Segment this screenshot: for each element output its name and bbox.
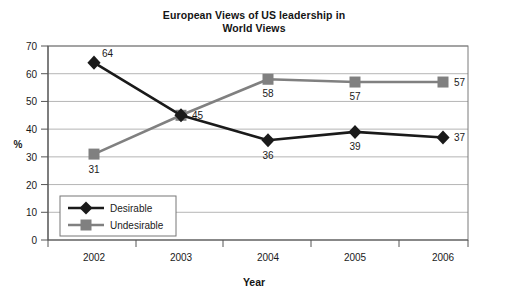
y-tick-label-30: 30 <box>26 152 38 163</box>
series-undesirable-marker-2006 <box>438 77 449 88</box>
x-axis <box>48 240 468 247</box>
y-tick-label-70: 70 <box>26 41 38 52</box>
y-tick-label-0: 0 <box>31 235 37 246</box>
data-label-desirable-2004: 36 <box>262 150 274 161</box>
x-tick-label-2005: 2005 <box>344 252 367 263</box>
x-tick-label-2006: 2006 <box>432 252 455 263</box>
legend-label-desirable: Desirable <box>110 203 153 214</box>
y-axis-title: % <box>14 139 23 150</box>
y-tick-label-10: 10 <box>26 207 38 218</box>
x-axis-title: Year <box>243 276 265 288</box>
legend-label-undesirable: Undesirable <box>110 220 164 231</box>
data-label-undesirable-2004: 58 <box>262 88 274 99</box>
y-tick-label-50: 50 <box>26 96 38 107</box>
data-label-desirable-2005: 39 <box>349 141 361 152</box>
series-undesirable-marker-2005 <box>350 77 361 88</box>
y-tick-label-20: 20 <box>26 180 38 191</box>
y-tick-label-40: 40 <box>26 124 38 135</box>
legend-item-undesirable[interactable]: Undesirable <box>68 220 164 232</box>
plot-area: 70 60 50 40 30 20 10 0 % 2002 2003 2004 … <box>0 0 508 295</box>
data-label-undesirable-2002: 31 <box>88 164 100 175</box>
square-icon <box>81 220 92 231</box>
y-tick-label-60: 60 <box>26 69 38 80</box>
chart-container: European Views of US leadership in World… <box>0 0 508 295</box>
y-axis <box>41 46 48 240</box>
data-label-undesirable-2005: 57 <box>349 91 361 102</box>
data-label-desirable-2002: 64 <box>102 48 114 59</box>
x-tick-label-2002: 2002 <box>83 252 106 263</box>
data-label-desirable-2006: 37 <box>454 132 466 143</box>
series-undesirable-marker-2004 <box>263 74 274 85</box>
x-tick-label-2004: 2004 <box>257 252 280 263</box>
series-undesirable-marker-2002 <box>89 149 100 160</box>
data-label-undesirable-2006: 57 <box>454 77 466 88</box>
data-label-crossover-2003: 45 <box>192 110 204 121</box>
legend: Desirable Undesirable <box>60 196 176 236</box>
x-tick-label-2003: 2003 <box>170 252 193 263</box>
